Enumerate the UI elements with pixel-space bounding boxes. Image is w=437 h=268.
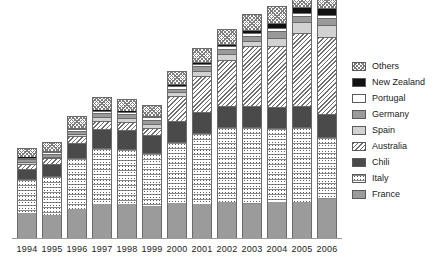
segment-others-2004	[268, 6, 286, 23]
bar-2004[interactable]	[267, 6, 287, 238]
segment-italy-2003	[243, 127, 261, 204]
legend-item-spain[interactable]: Spain	[352, 122, 437, 138]
x-label-1999: 1999	[138, 244, 166, 254]
legend-label: Chili	[372, 158, 390, 167]
bar-1997[interactable]	[92, 97, 112, 238]
segment-germany-2004	[268, 31, 286, 38]
segment-france-1998	[118, 204, 136, 238]
segment-spain-2002	[218, 54, 236, 60]
bar-1999[interactable]	[142, 105, 162, 238]
segment-others-1995	[43, 142, 61, 151]
x-label-1998: 1998	[113, 244, 141, 254]
segment-others-1998	[118, 99, 136, 111]
segment-chili-1994	[18, 169, 36, 179]
segment-new-zealand-2003	[243, 30, 261, 33]
segment-others-1996	[68, 116, 86, 128]
segment-new-zealand-2002	[218, 44, 236, 46]
bar-2006[interactable]	[317, 0, 337, 238]
segment-spain-2004	[268, 38, 286, 47]
segment-italy-2000	[168, 142, 186, 202]
segment-australia-2002	[218, 60, 236, 106]
segment-spain-1998	[118, 118, 136, 122]
legend-swatch-icon	[352, 126, 366, 135]
segment-chili-2000	[168, 121, 186, 142]
legend-item-new-zealand[interactable]: New Zealand	[352, 74, 437, 90]
segment-france-2005	[293, 202, 311, 238]
segment-australia-1998	[118, 122, 136, 130]
legend-item-chili[interactable]: Chili	[352, 154, 437, 170]
segment-italy-2004	[268, 128, 286, 202]
segment-portugal-2004	[268, 28, 286, 31]
segment-australia-1995	[43, 158, 61, 164]
segment-australia-2000	[168, 96, 186, 121]
segment-portugal-1994	[18, 158, 36, 160]
bar-2005[interactable]	[292, 0, 312, 238]
x-label-1996: 1996	[63, 244, 91, 254]
segment-italy-1998	[118, 149, 136, 205]
legend-label: Others	[372, 62, 399, 71]
segment-portugal-2006	[318, 15, 336, 18]
segment-italy-2002	[218, 127, 236, 202]
segment-spain-1996	[68, 134, 86, 137]
bar-2003[interactable]	[242, 14, 262, 238]
x-label-2002: 2002	[213, 244, 241, 254]
legend-item-france[interactable]: France	[352, 186, 437, 202]
legend-item-australia[interactable]: Australia	[352, 138, 437, 154]
segment-others-2001	[193, 48, 211, 61]
segment-new-zealand-2001	[193, 62, 211, 64]
segment-new-zealand-2000	[168, 84, 186, 86]
segment-italy-1994	[18, 179, 36, 214]
segment-italy-1996	[68, 158, 86, 209]
segment-others-2002	[218, 29, 236, 44]
segment-others-2000	[168, 71, 186, 83]
bar-1998[interactable]	[117, 99, 137, 238]
segment-new-zealand-2006	[318, 8, 336, 15]
bar-2000[interactable]	[167, 71, 187, 238]
x-label-1995: 1995	[38, 244, 66, 254]
segment-spain-1999	[143, 124, 161, 128]
legend-item-others[interactable]: Others	[352, 58, 437, 74]
legend-label: New Zealand	[372, 78, 425, 87]
x-label-2006: 2006	[313, 244, 341, 254]
legend-swatch-icon	[352, 158, 366, 167]
segment-germany-2001	[193, 66, 211, 71]
segment-france-1994	[18, 213, 36, 238]
segment-spain-2001	[193, 71, 211, 76]
segment-france-1999	[143, 206, 161, 238]
segment-germany-1995	[43, 154, 61, 157]
segment-portugal-1997	[93, 111, 111, 114]
segment-france-2006	[318, 199, 336, 238]
legend-item-italy[interactable]: Italy	[352, 170, 437, 186]
segment-france-2004	[268, 202, 286, 238]
legend-swatch-icon	[352, 110, 366, 119]
legend-label: France	[372, 190, 400, 199]
legend-item-germany[interactable]: Germany	[352, 106, 437, 122]
segment-chili-1996	[68, 143, 86, 158]
segment-portugal-2003	[243, 33, 261, 36]
segment-australia-2001	[193, 76, 211, 111]
segment-chili-2006	[318, 114, 336, 137]
segment-australia-1999	[143, 128, 161, 136]
bar-2001[interactable]	[192, 48, 212, 238]
segment-others-2003	[243, 14, 261, 30]
segment-germany-2005	[293, 16, 311, 23]
segment-australia-2003	[243, 46, 261, 105]
bar-1994[interactable]	[17, 148, 37, 238]
segment-others-2005	[293, 0, 311, 7]
segment-chili-1998	[118, 130, 136, 149]
segment-australia-2006	[318, 37, 336, 115]
bar-1996[interactable]	[67, 116, 87, 238]
x-label-1994: 1994	[13, 244, 41, 254]
legend-swatch-icon	[352, 174, 366, 183]
legend-item-portugal[interactable]: Portugal	[352, 90, 437, 106]
segment-germany-2003	[243, 36, 261, 41]
bar-1995[interactable]	[42, 142, 62, 238]
segment-france-2001	[193, 204, 211, 239]
segment-spain-2003	[243, 41, 261, 47]
segment-chili-1997	[93, 129, 111, 148]
segment-france-2002	[218, 202, 236, 238]
segment-france-1996	[68, 209, 86, 238]
bar-2002[interactable]	[217, 29, 237, 238]
segment-chili-2003	[243, 106, 261, 127]
segment-portugal-1999	[143, 117, 161, 120]
